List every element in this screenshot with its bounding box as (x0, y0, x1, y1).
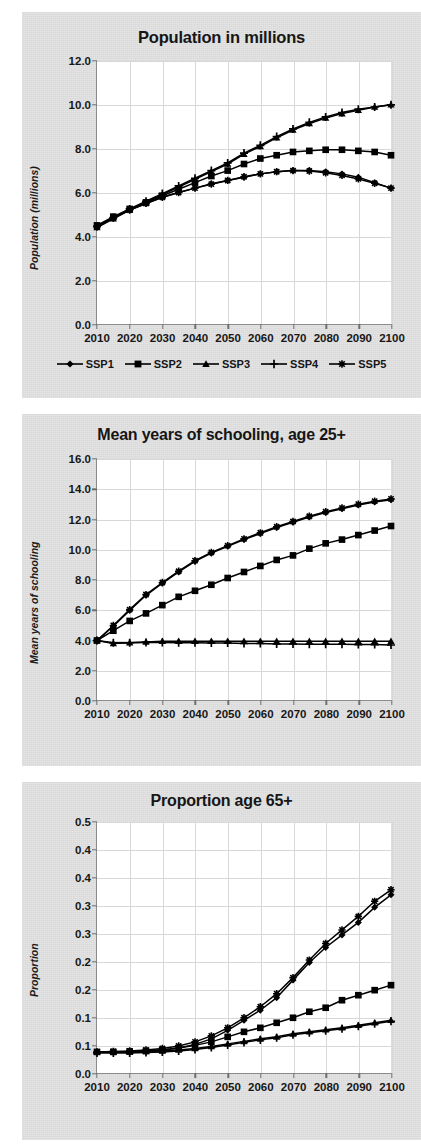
x-axis-tick-label: 2050 (215, 708, 241, 720)
x-axis-tick-mark (260, 1073, 261, 1078)
y-axis-tick-label: 12.0 (69, 514, 91, 526)
asterisk-marker (142, 591, 149, 598)
square-marker (290, 552, 297, 559)
legend-item-ssp2[interactable]: SSP2 (125, 357, 182, 371)
plus-marker (305, 1029, 313, 1037)
x-axis-tick-mark (391, 324, 392, 329)
plus-marker (387, 1017, 395, 1025)
x-axis-tick-mark (162, 1073, 163, 1078)
square-marker (371, 987, 378, 994)
square-marker (224, 167, 231, 174)
plus-marker (371, 1020, 379, 1028)
asterisk-marker (387, 886, 394, 893)
x-axis-tick-mark (293, 324, 294, 329)
plus-marker (224, 639, 232, 647)
asterisk-marker (387, 184, 394, 191)
square-marker (322, 1004, 329, 1011)
x-axis-tick-label: 2090 (346, 708, 372, 720)
plus-marker (256, 1036, 264, 1044)
y-axis-tick-label: 2.0 (75, 275, 91, 287)
x-axis-tick-label: 2060 (248, 708, 274, 720)
legend-item-ssp4[interactable]: SSP4 (261, 357, 318, 371)
x-axis-tick-label: 2070 (281, 332, 307, 344)
legend-item-ssp3[interactable]: SSP3 (193, 357, 250, 371)
x-axis-tick-mark (359, 700, 360, 705)
x-axis-tick-mark (96, 1073, 97, 1078)
gridline-vertical (392, 822, 393, 1073)
y-axis-tick-label: 10.0 (69, 99, 91, 111)
plus-marker (142, 638, 150, 646)
legend-item-ssp5[interactable]: SSP5 (329, 357, 386, 371)
asterisk-marker (387, 495, 394, 502)
plus-marker (224, 1041, 232, 1049)
square-marker (257, 563, 264, 570)
x-axis-tick-mark (260, 324, 261, 329)
x-axis-tick-mark (391, 1073, 392, 1078)
plus-marker (289, 1031, 297, 1039)
square-marker (273, 557, 280, 564)
y-axis-tick-label: 0.1 (75, 1040, 91, 1052)
series-line (97, 1021, 391, 1053)
square-marker (371, 149, 378, 156)
x-axis-tick-mark (195, 700, 196, 705)
x-axis-tick-label: 2010 (84, 708, 110, 720)
square-marker (192, 587, 199, 594)
y-axis-tick-label: 0.3 (75, 928, 91, 940)
square-marker (388, 982, 395, 989)
asterisk-marker (142, 200, 149, 207)
asterisk-marker (126, 606, 133, 613)
legend-item-ssp1[interactable]: SSP1 (57, 357, 114, 371)
square-marker (290, 1014, 297, 1021)
square-marker (257, 1025, 264, 1032)
plus-marker (270, 360, 278, 368)
square-marker (322, 146, 329, 153)
x-axis-tick-mark (293, 700, 294, 705)
x-axis-tick-mark (129, 1073, 130, 1078)
asterisk-marker (110, 1048, 117, 1055)
legend-label: SSP5 (358, 358, 386, 370)
gridline-vertical (392, 459, 393, 700)
y-axis-label-proportion65: Proportion (28, 943, 40, 997)
legend-key-square-marker (125, 357, 151, 371)
asterisk-marker (224, 1024, 231, 1031)
x-axis-tick-label: 2010 (84, 1081, 110, 1093)
x-axis-tick-mark (162, 324, 163, 329)
figure-page: Population in millions Population (milli… (0, 0, 421, 1148)
series-layer (97, 822, 391, 1073)
x-axis-tick-label: 2090 (346, 332, 372, 344)
x-axis-tick-label: 2090 (346, 1081, 372, 1093)
asterisk-marker (208, 549, 215, 556)
square-marker (241, 161, 248, 168)
asterisk-marker (273, 523, 280, 530)
square-marker (388, 523, 395, 530)
square-marker (208, 581, 215, 588)
legend-label: SSP3 (222, 358, 250, 370)
x-axis-tick-mark (195, 324, 196, 329)
y-axis-tick-label: 12.0 (69, 55, 91, 67)
asterisk-marker (240, 1014, 247, 1021)
series-SSP2 (94, 146, 395, 228)
asterisk-marker (338, 172, 345, 179)
square-marker (355, 992, 362, 999)
y-axis-tick-label: 0.1 (75, 1012, 91, 1024)
plus-marker (207, 639, 215, 647)
legend-key-diamond-marker (57, 357, 83, 371)
square-marker (241, 1029, 248, 1036)
x-axis-tick-mark (326, 1073, 327, 1078)
asterisk-marker (93, 223, 100, 230)
square-marker (388, 152, 395, 159)
y-axis-tick-label: 0.0 (75, 695, 91, 707)
x-axis-tick-label: 2020 (117, 1081, 143, 1093)
square-marker (290, 149, 297, 156)
x-axis-tick-mark (96, 700, 97, 705)
x-axis-tick-mark (162, 700, 163, 705)
asterisk-marker (355, 913, 362, 920)
square-marker (371, 527, 378, 534)
y-axis-tick-label: 8.0 (75, 574, 91, 586)
x-axis-tick-label: 2050 (215, 332, 241, 344)
x-axis-tick-mark (359, 1073, 360, 1078)
asterisk-marker (159, 579, 166, 586)
y-axis-label-schooling: Mean years of schooling (28, 541, 40, 664)
x-axis-tick-label: 2040 (183, 1081, 209, 1093)
y-axis-tick-label: 6.0 (75, 187, 91, 199)
